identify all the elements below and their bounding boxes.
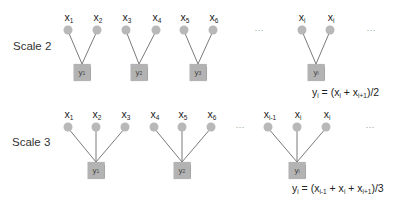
input-label: x3 [123,11,132,24]
ellipsis: ··· [236,122,245,132]
input-label: xi [328,11,335,24]
node-icon [121,123,130,132]
scale-2-formula: yi = (xi + xi+1)/2 [312,86,379,99]
input-label: x4 [153,11,162,24]
input-label: x2 [93,108,102,121]
node-icon [122,26,131,35]
output-node: y1 [74,64,91,81]
output-node: y2 [131,64,148,81]
input-label: x6 [210,11,219,24]
input-label: x5 [181,11,190,24]
ellipsis: ··· [255,25,264,35]
node-icon [93,26,102,35]
input-label: x1 [65,11,74,24]
input-label: x1 [65,108,74,121]
node-icon [322,123,331,132]
output-node: y2 [174,162,191,179]
node-icon [64,123,73,132]
edges-layer [0,0,397,200]
input-label: x3 [122,108,131,121]
output-node: yi [289,162,306,179]
input-label: x5 [179,108,188,121]
input-label: x2 [94,11,103,24]
node-icon [207,123,216,132]
node-icon [264,123,273,132]
input-label: xi [324,108,331,121]
node-icon [64,26,73,35]
input-label: x4 [151,108,160,121]
node-icon [152,26,161,35]
node-icon [298,26,307,35]
node-icon [150,123,159,132]
input-label: x6 [208,108,217,121]
node-icon [293,123,302,132]
scale-3-label: Scale 3 [12,136,50,148]
node-icon [180,26,189,35]
output-node: y1 [88,162,105,179]
node-icon [326,26,335,35]
node-icon [178,123,187,132]
ellipsis: ··· [367,25,376,35]
input-label: xi-1 [264,108,276,121]
scale-2-label: Scale 2 [13,40,51,52]
output-node: yi [308,64,325,81]
node-icon [209,26,218,35]
input-label: xi [299,11,306,24]
output-node: y3 [190,64,207,81]
ellipsis: ··· [366,122,375,132]
input-label: xi [295,108,302,121]
node-icon [92,123,101,132]
scale-3-formula: yi = (xi-1 + xi + xi+1)/3 [292,182,384,195]
